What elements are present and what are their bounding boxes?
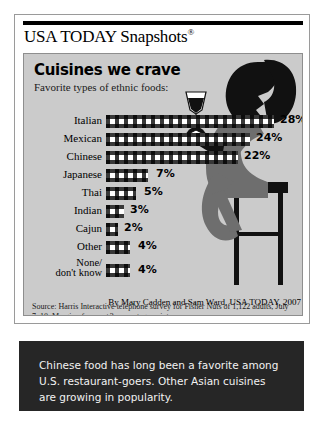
bar-track [106,205,124,218]
bar-track [106,115,274,128]
bar-track [106,264,130,277]
bar-row: Other 4% [24,240,303,257]
bar-fill [106,241,130,254]
bar-fill [106,264,130,277]
caption-text: Chinese food has long been a favorite am… [39,357,284,405]
bar-value: 5% [144,185,163,198]
header-rule [23,21,303,25]
brand-header: USA TODAY Snapshots® [24,27,302,51]
bar-row: Italian 28% [24,114,303,131]
brand-title: USA TODAY Snapshots [24,27,187,46]
snapshot-card: USA TODAY Snapshots® Cuisines we crave F… [14,14,310,324]
bar-value: 2% [124,221,143,234]
bar-row: Chinese 22% [24,150,303,167]
bar-value: 28% [280,113,303,126]
bar-track [106,223,118,236]
bar-track [106,187,136,200]
byline: By Mary Cadden and Sam Ward, USA TODAY, … [23,297,301,307]
bar-fill [106,151,238,164]
bar-row: Cajun 2% [24,222,303,239]
bar-label: Italian [24,114,102,127]
bar-label: Other [24,240,102,253]
bar-row: Indian 3% [24,204,303,221]
bar-chart: Italian 28% Mexican 24% Chinese 22% [24,114,303,281]
registered-mark-icon: ® [187,27,194,37]
bar-label: None/don't know [24,258,102,278]
bar-value: 7% [156,167,175,180]
bar-fill [106,169,148,182]
chart-subtitle: Favorite types of ethnic foods: [34,81,168,93]
bar-row: Mexican 24% [24,132,303,149]
bar-fill [106,133,250,146]
bar-row: None/don't know 4% [24,258,303,280]
bar-row: Japanese 7% [24,168,303,185]
bar-label: Japanese [24,168,102,181]
bar-track [106,133,250,146]
bar-label: Thai [24,186,102,199]
bar-row: Thai 5% [24,186,303,203]
bar-value: 4% [138,239,157,252]
bar-label: Chinese [24,150,102,163]
bar-label: Mexican [24,132,102,145]
bar-fill [106,223,118,236]
wine-liquid-icon [188,98,204,113]
bar-value: 3% [130,203,149,216]
bar-fill [106,115,274,128]
bar-value: 4% [138,263,157,276]
bar-value: 22% [244,149,270,162]
bar-fill [106,205,124,218]
chart-title: Cuisines we crave [34,61,180,79]
bar-track [106,241,130,254]
chart-panel: Cuisines we crave Favorite types of ethn… [23,53,303,316]
bar-value: 24% [256,131,282,144]
bar-track [106,169,148,182]
bar-fill [106,187,136,200]
bar-label: Indian [24,204,102,217]
bar-label: Cajun [24,222,102,235]
caption-box: Chinese food has long been a favorite am… [19,341,304,411]
bar-track [106,151,238,164]
